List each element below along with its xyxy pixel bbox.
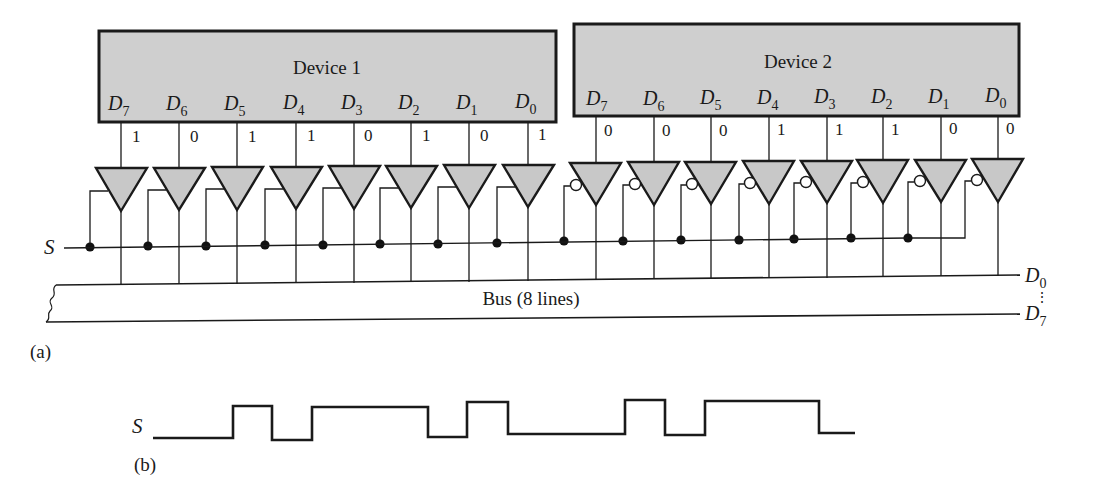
bit-value: 0 (719, 121, 728, 140)
tristate-buffer-icon (503, 165, 554, 207)
select-waveform: S (b) (132, 400, 855, 476)
bit-value: 0 (480, 126, 489, 145)
bit-value: 1 (891, 120, 900, 139)
bit-value: 1 (132, 127, 141, 146)
tristate-buffer-icon (271, 167, 322, 209)
inversion-bubble-icon (687, 179, 698, 190)
tristate-buffer-icon (386, 166, 437, 208)
part-a-label: (a) (30, 341, 51, 363)
device-1-bit-values: 1 0 1 1 0 1 0 1 (132, 125, 547, 146)
device-1-output-wires (121, 121, 528, 168)
inversion-bubble-icon (858, 177, 869, 188)
inversion-bubble-icon (972, 175, 983, 186)
bit-value: 0 (949, 119, 958, 138)
bus-d0-label: D0 (1024, 264, 1046, 291)
bit-value: 1 (248, 127, 257, 146)
bus-line-d7 (46, 314, 1020, 322)
part-b-label: (b) (134, 454, 156, 476)
bit-value: 1 (538, 125, 547, 144)
waveform-trace (153, 400, 855, 440)
junction-dot-icon (85, 242, 94, 251)
bus-label: Bus (8 lines) (482, 288, 579, 310)
junction-dot-icon (676, 235, 685, 244)
junction-dot-icon (143, 241, 152, 250)
bit-value: 1 (777, 120, 786, 139)
select-signal-label: S (44, 235, 55, 259)
bit-value: 1 (422, 126, 431, 145)
bit-value: 0 (1006, 119, 1015, 138)
inversion-bubble-icon (745, 178, 756, 189)
inversion-bubble-icon (571, 180, 582, 191)
inversion-bubble-icon (630, 179, 641, 190)
bus-multiplexing-diagram: Device 1 D7 D6 D5 D4 D3 D2 D1 D0 1 0 (0, 0, 1110, 503)
inversion-bubble-icon (915, 176, 926, 187)
tristate-buffer-icon (154, 168, 205, 210)
bus: Bus (8 lines) D0 ⋮ D7 (46, 264, 1049, 329)
bit-value: 0 (364, 126, 373, 145)
waveform-signal-label: S (132, 414, 143, 438)
bit-value: 0 (662, 121, 671, 140)
bit-value: 0 (604, 121, 613, 140)
bit-value: 1 (307, 126, 316, 145)
junction-dot-icon (559, 236, 568, 245)
device-2-title: Device 2 (764, 51, 832, 72)
device-1-title: Device 1 (293, 57, 361, 78)
bus-d7-label: D7 (1024, 302, 1046, 329)
tristate-buffer-icon (96, 168, 147, 211)
bit-value: 1 (835, 120, 844, 139)
inversion-bubble-icon (801, 177, 812, 188)
device-2-bit-values: 0 0 0 1 1 1 0 0 (604, 119, 1015, 140)
bus-line-d0 (56, 275, 1020, 285)
select-wire (64, 238, 908, 248)
bus-break-icon (46, 285, 56, 322)
device-2-output-wires (596, 115, 998, 163)
bit-value: 0 (190, 127, 199, 146)
select-line: S (44, 235, 908, 259)
